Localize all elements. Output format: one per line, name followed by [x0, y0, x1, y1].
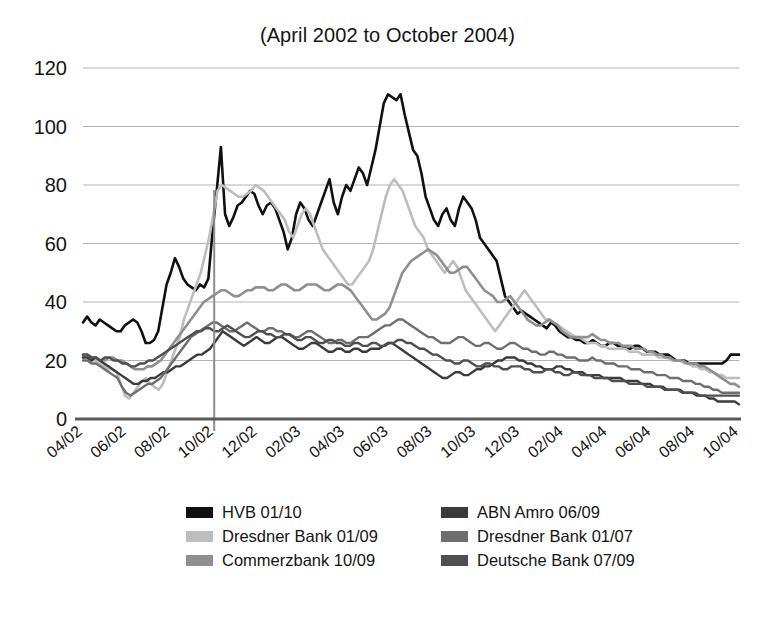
- legend-swatch-icon: [186, 507, 213, 518]
- x-tick-label: 10/03: [437, 422, 479, 461]
- x-tick-label: 06/04: [612, 422, 654, 461]
- x-tick-label: 10/04: [699, 422, 741, 461]
- chart-figure: (April 2002 to October 2004) 02040608010…: [0, 0, 775, 620]
- y-tick-label: 20: [45, 350, 67, 372]
- legend-item[interactable]: Commerzbank 10/09: [186, 552, 441, 569]
- y-tick-label: 40: [45, 291, 67, 313]
- legend-swatch-icon: [186, 555, 213, 566]
- y-tick-label: 80: [45, 174, 67, 196]
- series-line: [83, 94, 739, 363]
- x-tick-label: 08/02: [131, 422, 173, 461]
- y-axis-tick-labels: 020406080100120: [34, 57, 67, 430]
- x-tick-label: 02/03: [262, 422, 304, 461]
- y-tick-label: 120: [34, 57, 67, 79]
- legend-swatch-icon: [441, 507, 468, 518]
- x-tick-label: 12/03: [481, 422, 523, 461]
- x-tick-label: 06/02: [87, 422, 129, 461]
- y-tick-label: 100: [34, 116, 67, 138]
- legend-label: ABN Amro 06/09: [477, 504, 600, 521]
- legend-item[interactable]: Dresdner Bank 01/07: [441, 528, 686, 545]
- x-tick-label: 08/04: [656, 422, 698, 461]
- series-group: [83, 94, 739, 404]
- x-tick-label: 12/02: [218, 422, 260, 461]
- legend-item[interactable]: HVB 01/10: [186, 504, 441, 521]
- y-tick-label: 60: [45, 233, 67, 255]
- y-tick-label: 0: [56, 408, 67, 430]
- x-axis-tick-labels: 04/0206/0208/0210/0212/0202/0304/0306/03…: [43, 422, 741, 461]
- plot-area: 020406080100120 04/0206/0208/0210/0212/0…: [0, 0, 775, 500]
- legend-label: Dresdner Bank 01/09: [222, 528, 378, 545]
- legend-swatch-icon: [441, 531, 468, 542]
- x-tick-label: 04/03: [306, 422, 348, 461]
- x-tick-label: 06/03: [349, 422, 391, 461]
- legend-item[interactable]: ABN Amro 06/09: [441, 504, 686, 521]
- x-tick-label: 02/04: [524, 422, 566, 461]
- legend-label: Deutsche Bank 07/09: [477, 552, 635, 569]
- legend-swatch-icon: [186, 531, 213, 542]
- x-tick-label: 08/03: [393, 422, 435, 461]
- legend-item[interactable]: Deutsche Bank 07/09: [441, 552, 686, 569]
- legend-item[interactable]: Dresdner Bank 01/09: [186, 528, 441, 545]
- chart-legend: HVB 01/10ABN Amro 06/09Dresdner Bank 01/…: [186, 500, 686, 572]
- legend-label: Dresdner Bank 01/07: [477, 528, 633, 545]
- legend-swatch-icon: [441, 555, 468, 566]
- x-tick-label: 04/04: [568, 422, 610, 461]
- x-tick-label: 10/02: [175, 422, 217, 461]
- legend-label: HVB 01/10: [222, 504, 302, 521]
- legend-label: Commerzbank 10/09: [222, 552, 375, 569]
